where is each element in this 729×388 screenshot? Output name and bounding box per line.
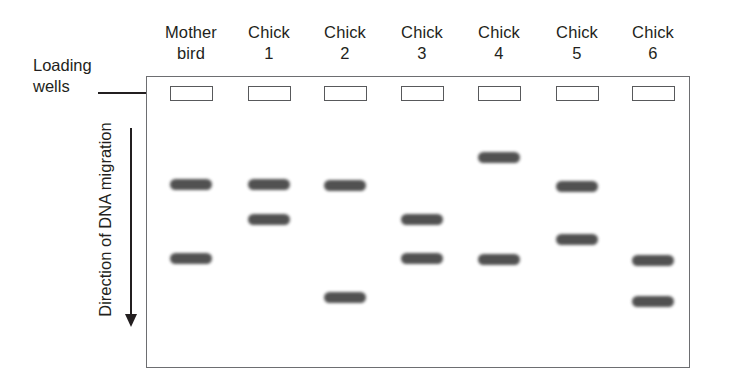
loading-well-chick-3 [401, 86, 444, 101]
lane-header-line2: 4 [454, 43, 544, 64]
loading-wells-label-line1: Loading [33, 56, 92, 74]
loading-well-chick-1 [248, 86, 291, 101]
lane-header-line1: Chick [608, 22, 698, 43]
loading-well-chick-5 [556, 86, 599, 101]
dna-band-chick-5-2 [556, 234, 598, 245]
migration-direction-label: Direction of DNA migration [96, 105, 115, 335]
lane-header-chick-6: Chick6 [608, 22, 698, 64]
dna-band-chick-3-1 [401, 214, 443, 225]
dna-band-chick-6-1 [632, 255, 674, 266]
loading-well-mother-bird [170, 86, 213, 101]
dna-band-chick-4-1 [478, 152, 520, 163]
loading-well-chick-2 [324, 86, 367, 101]
dna-band-mother-bird-2 [170, 253, 212, 264]
dna-band-chick-5-1 [556, 181, 598, 192]
lane-header-line1: Mother [146, 22, 236, 43]
migration-arrow-down-icon [125, 314, 137, 327]
loading-well-chick-6 [632, 86, 675, 101]
dna-band-chick-3-2 [401, 253, 443, 264]
loading-wells-label: Loading wells [33, 55, 103, 97]
dna-band-chick-1-2 [248, 214, 290, 225]
lane-header-mother-bird: Motherbird [146, 22, 236, 64]
lane-header-line1: Chick [454, 22, 544, 43]
migration-arrow-shaft [130, 128, 132, 318]
lane-header-line2: bird [146, 43, 236, 64]
dna-band-chick-1-1 [248, 179, 290, 190]
dna-band-chick-2-1 [324, 180, 366, 191]
dna-band-chick-6-2 [632, 296, 674, 307]
dna-band-chick-2-2 [324, 292, 366, 303]
dna-band-chick-4-2 [478, 254, 520, 265]
loading-well-chick-4 [478, 86, 521, 101]
dna-band-mother-bird-1 [170, 179, 212, 190]
lane-header-chick-4: Chick4 [454, 22, 544, 64]
lane-header-line2: 6 [608, 43, 698, 64]
loading-wells-label-line2: wells [33, 77, 70, 95]
